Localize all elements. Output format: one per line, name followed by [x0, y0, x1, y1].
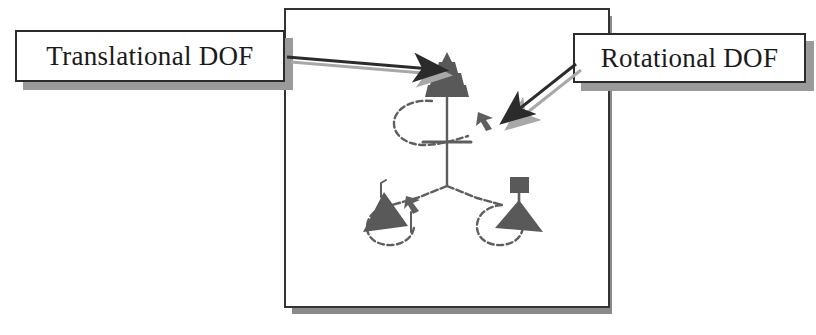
rotational-callout-label: Rotational DOF [601, 43, 778, 74]
translational-callout-label: Translational DOF [46, 41, 253, 72]
figure-screenshot: Translational DOF Rotational DOF [0, 0, 816, 335]
figure-frame [284, 8, 610, 308]
rotational-callout-box[interactable]: Rotational DOF [573, 33, 806, 83]
translational-callout-box[interactable]: Translational DOF [15, 30, 285, 82]
